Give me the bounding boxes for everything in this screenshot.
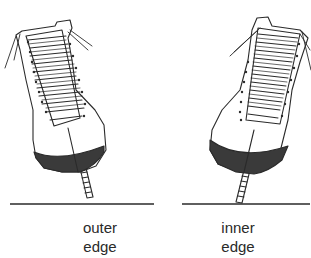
caption-line-1: outer — [55, 218, 145, 237]
outer-edge-caption: outer edge — [55, 218, 145, 256]
skate-boot-drawing — [160, 0, 311, 210]
caption-line-2: edge — [55, 237, 145, 256]
caption-line-2: edge — [193, 237, 283, 256]
skate-outer-edge-figure — [0, 0, 160, 210]
caption-line-1: inner — [193, 218, 283, 237]
skate-boot-drawing — [0, 0, 160, 210]
skate-inner-edge-figure — [160, 0, 311, 210]
inner-edge-caption: inner edge — [193, 218, 283, 256]
